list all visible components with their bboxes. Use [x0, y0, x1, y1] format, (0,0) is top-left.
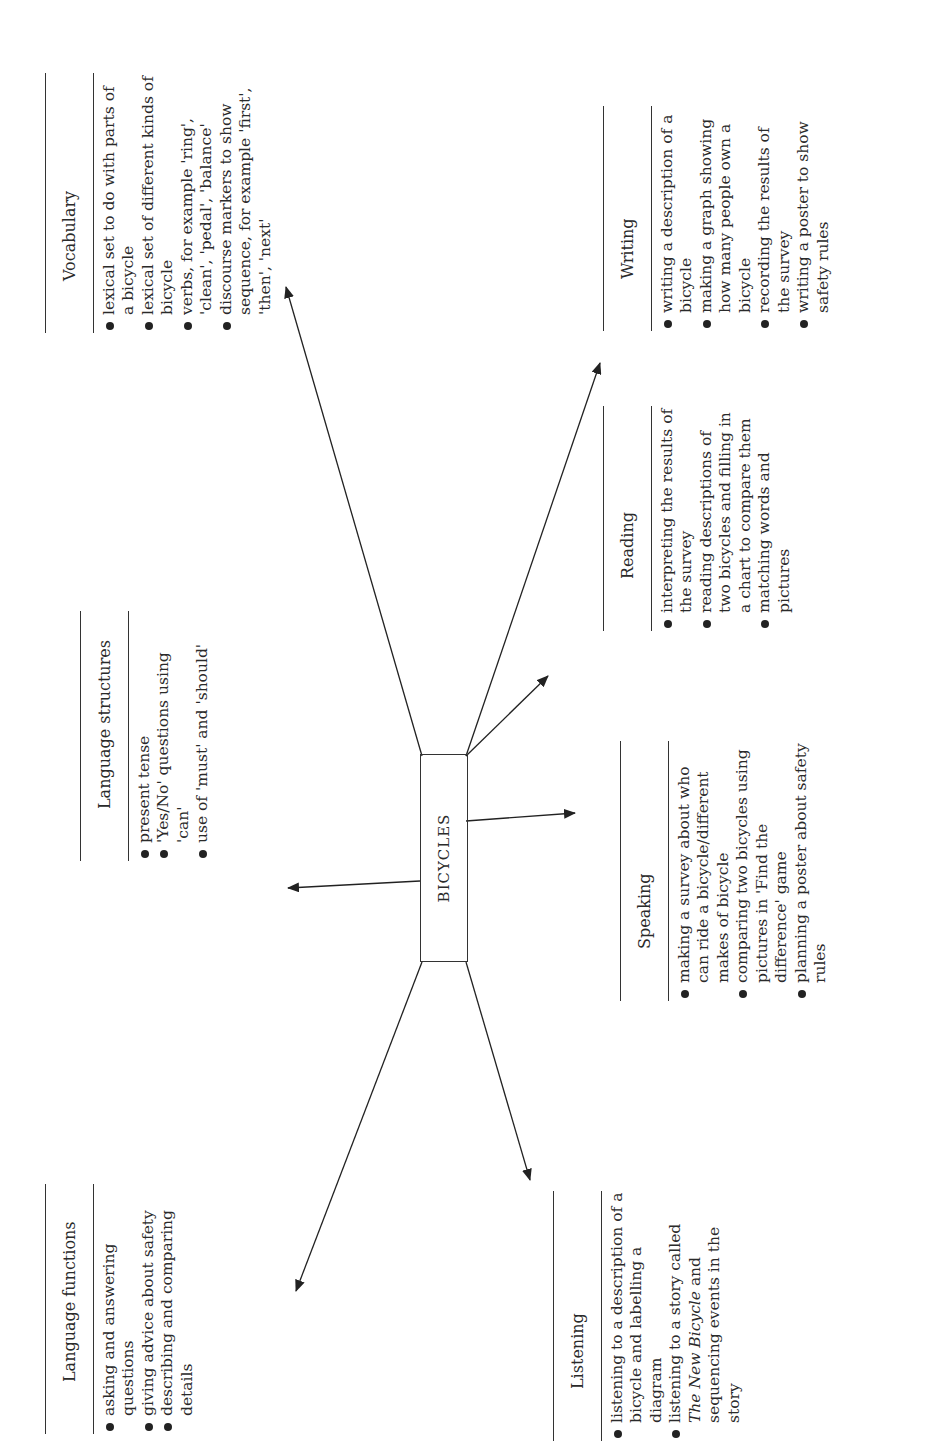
list-item: comparing two bicycles using pictures in… [733, 741, 792, 1001]
list-item: making a survey about who can ride a bic… [675, 741, 734, 1001]
list-item: writing a poster to show safety rules [794, 106, 833, 331]
item-list: present tense 'Yes/No' questions using '… [135, 611, 213, 861]
list-item: planning a poster about safety rules [792, 741, 831, 1001]
arrow-reading [466, 676, 548, 756]
arrow-language-functions [296, 962, 422, 1291]
list-item: listening to a description of a bicycle … [608, 1191, 667, 1441]
section-listening: Listening listening to a description of … [553, 1191, 744, 1441]
section-speaking: Speaking making a survey about who can r… [620, 741, 831, 1001]
list-item: reading descriptions of two bicycles and… [697, 406, 756, 631]
arrow-speaking [466, 813, 575, 821]
item-list: making a survey about who can ride a bic… [675, 741, 831, 1001]
section-reading: Reading interpreting the results of the … [603, 406, 794, 631]
list-item: lexical set to do with parts of a bicycl… [100, 73, 139, 333]
list-item: listening to a story called The New Bicy… [666, 1191, 744, 1441]
list-item: verbs, for example 'ring', 'clean', 'ped… [178, 73, 217, 333]
item-list: interpreting the results of the survey r… [658, 406, 795, 631]
list-item: lexical set of different kinds of bicycl… [139, 73, 178, 333]
central-topic-label: BICYCLES [435, 814, 453, 903]
arrow-writing [466, 363, 600, 756]
list-item: matching words and pictures [755, 406, 794, 631]
mind-map: BICYCLES Language functions asking and a… [0, 0, 949, 1441]
item-list: writing a description of a bicycle makin… [658, 106, 834, 331]
list-item: recording the results of the survey [755, 106, 794, 331]
list-item: writing a description of a bicycle [658, 106, 697, 331]
section-writing: Writing writing a description of a bicyc… [603, 106, 833, 331]
section-title: Vocabulary [45, 73, 94, 333]
list-item: use of 'must' and 'should' [193, 611, 213, 861]
section-language-structures: Language structures present tense 'Yes/N… [80, 611, 213, 861]
section-title: Listening [553, 1191, 602, 1441]
arrow-language-structures [288, 881, 420, 888]
section-title: Language structures [80, 611, 129, 861]
list-item: giving advice about safety [139, 1184, 159, 1434]
item-list: lexical set to do with parts of a bicycl… [100, 73, 276, 333]
central-topic-box: BICYCLES [420, 754, 468, 962]
list-item: asking and answering questions [100, 1184, 139, 1434]
list-item: discourse markers to show sequence, for … [217, 73, 276, 333]
section-title: Language functions [45, 1184, 94, 1434]
item-list: listening to a description of a bicycle … [608, 1191, 745, 1441]
list-item: present tense [135, 611, 155, 861]
arrow-listening [466, 962, 530, 1180]
story-title: The New Bicycle [686, 1291, 704, 1423]
section-title: Speaking [620, 741, 669, 1001]
section-title: Writing [603, 106, 652, 331]
section-vocabulary: Vocabulary lexical set to do with parts … [45, 73, 275, 333]
item-list: asking and answering questions giving ad… [100, 1184, 198, 1434]
section-title: Reading [603, 406, 652, 631]
list-item: interpreting the results of the survey [658, 406, 697, 631]
list-item: 'Yes/No' questions using 'can' [154, 611, 193, 861]
section-language-functions: Language functions asking and answering … [45, 1184, 197, 1434]
list-item: describing and comparing details [158, 1184, 197, 1434]
arrow-vocabulary [286, 287, 422, 756]
list-item: making a graph showing how many people o… [697, 106, 756, 331]
